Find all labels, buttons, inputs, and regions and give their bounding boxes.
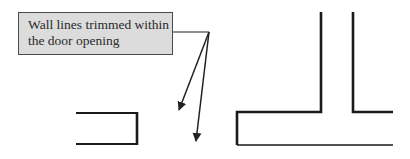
leader-lines [173,32,209,141]
right-wall-right-branch [353,12,393,112]
callout-line-2: the door opening [28,33,172,49]
right-wall-fragment [237,12,393,145]
callout-line-1: Wall lines trimmed within [28,17,172,33]
right-wall-left-branch [237,12,321,145]
left-wall-fragment [76,112,138,145]
callout-box: Wall lines trimmed within the door openi… [18,12,173,55]
